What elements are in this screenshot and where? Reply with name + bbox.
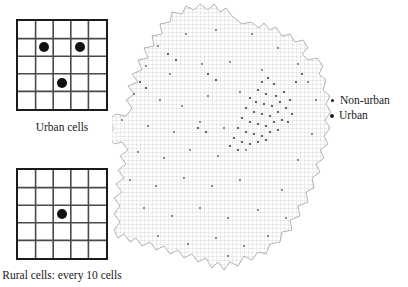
map-legend: Non-urban Urban xyxy=(330,93,406,123)
urban-cells-grid xyxy=(16,19,108,111)
non-urban-dot-icon xyxy=(331,99,334,102)
legend-item-urban: Urban xyxy=(330,108,406,123)
rural-cells-grid xyxy=(16,168,108,260)
region-shape xyxy=(112,4,332,284)
panel-rural-cells: Rural cells: every 10 cells xyxy=(16,168,124,282)
urban-cell-dot xyxy=(57,78,67,88)
region-map-svg xyxy=(112,4,332,284)
figure-root: Urban cells Rural cells: every 10 cells xyxy=(0,0,408,287)
urban-dot-icon xyxy=(330,114,334,118)
legend-label-urban: Urban xyxy=(339,109,368,122)
urban-grid-lines xyxy=(18,21,106,109)
panel-urban-cells: Urban cells xyxy=(16,19,108,134)
rural-cells-caption: Rural cells: every 10 cells xyxy=(0,268,124,282)
urban-cell-dot xyxy=(75,42,85,52)
rural-cell-dot xyxy=(57,209,67,219)
legend-item-non-urban: Non-urban xyxy=(330,93,406,108)
legend-label-non-urban: Non-urban xyxy=(340,94,390,107)
region-map xyxy=(112,4,332,284)
urban-cells-caption: Urban cells xyxy=(16,120,108,134)
